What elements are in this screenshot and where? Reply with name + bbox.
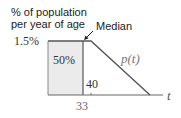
x-tick-label-33: 33 xyxy=(76,99,88,114)
x-axis-label: t xyxy=(167,88,171,104)
y-axis-label-line1: % of population xyxy=(11,6,87,18)
curve-label: p(t) xyxy=(121,51,140,67)
median-label: Median xyxy=(96,20,132,32)
shaded-percent-label: 50% xyxy=(53,53,75,68)
x-tick-label-40: 40 xyxy=(86,77,98,92)
y-tick-1-5-percent: 1.5% xyxy=(14,34,39,49)
y-axis-label-line2: per year of age xyxy=(11,18,85,30)
median-shaded-region xyxy=(48,41,83,95)
